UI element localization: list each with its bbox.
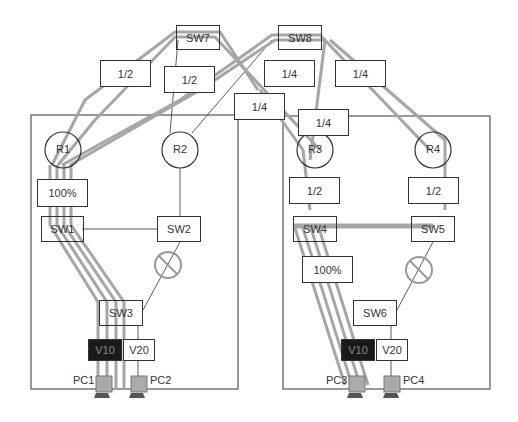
pc1-label: PC1 bbox=[73, 374, 94, 386]
switch-sw5[interactable]: SW5 bbox=[411, 216, 455, 242]
switch-sw8[interactable]: SW8 bbox=[278, 25, 322, 50]
vlan-v20-left: V20 bbox=[123, 339, 155, 361]
pc3-label: PC3 bbox=[326, 374, 347, 386]
network-diagram: SW7 SW8 1/2 1/2 1/4 1/4 1/4 1/4 R1 R2 R3… bbox=[0, 0, 518, 422]
load-label: 1/2 bbox=[289, 177, 340, 204]
load-label: 1/4 bbox=[234, 93, 285, 120]
switch-sw4[interactable]: SW4 bbox=[293, 216, 337, 242]
vlan-v10-left: V10 bbox=[88, 339, 122, 361]
switch-sw1[interactable]: SW1 bbox=[41, 216, 84, 242]
load-label: 1/2 bbox=[100, 60, 151, 87]
router-r2[interactable]: R2 bbox=[173, 143, 187, 155]
router-r4[interactable]: R4 bbox=[426, 143, 440, 155]
load-label: 100% bbox=[37, 179, 88, 207]
switch-sw7[interactable]: SW7 bbox=[176, 25, 220, 50]
router-r1[interactable]: R1 bbox=[56, 143, 70, 155]
load-label: 1/2 bbox=[408, 177, 459, 204]
diagram-lines bbox=[0, 0, 518, 422]
router-r3[interactable]: R3 bbox=[308, 143, 322, 155]
load-label: 1/4 bbox=[264, 60, 315, 87]
load-label: 1/4 bbox=[298, 109, 349, 136]
pc2-label: PC2 bbox=[150, 374, 171, 386]
vlan-v10-right: V10 bbox=[341, 339, 375, 361]
switch-sw3[interactable]: SW3 bbox=[99, 300, 143, 326]
pc4-label: PC4 bbox=[403, 374, 424, 386]
load-label: 1/4 bbox=[335, 60, 386, 87]
switch-sw6[interactable]: SW6 bbox=[353, 300, 397, 326]
load-label: 100% bbox=[302, 256, 353, 283]
load-label: 1/2 bbox=[164, 66, 215, 93]
vlan-v20-right: V20 bbox=[376, 339, 408, 361]
switch-sw2[interactable]: SW2 bbox=[157, 216, 201, 242]
